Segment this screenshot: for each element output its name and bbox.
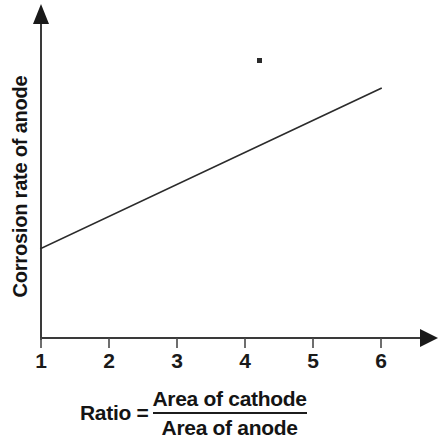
corrosion-rate-chart: 1 2 3 4 5 6 Corrosion rate of anode Rati… (0, 0, 440, 447)
x-tick-label-4: 4 (232, 349, 258, 373)
scan-speck-mark (257, 58, 262, 63)
y-axis-label-container: Corrosion rate of anode (0, 0, 38, 447)
ratio-fraction: Area of cathode Area of anode (153, 386, 307, 440)
x-axis-caption-prefix: Ratio = (80, 401, 153, 425)
fraction-denominator: Area of anode (162, 415, 298, 440)
x-tick-label-5: 5 (300, 349, 326, 373)
x-axis-arrow-icon (420, 329, 438, 347)
x-tick-label-6: 6 (368, 349, 394, 373)
x-tick-label-2: 2 (96, 349, 122, 373)
y-axis-label: Corrosion rate of anode (9, 72, 32, 302)
x-axis-caption: Ratio = Area of cathode Area of anode (80, 386, 380, 440)
x-axis-ticks (41, 338, 381, 348)
x-tick-label-3: 3 (164, 349, 190, 373)
chart-canvas (0, 0, 440, 447)
fraction-bar (153, 412, 307, 414)
data-series-line (41, 88, 381, 248)
fraction-numerator: Area of cathode (153, 386, 307, 411)
